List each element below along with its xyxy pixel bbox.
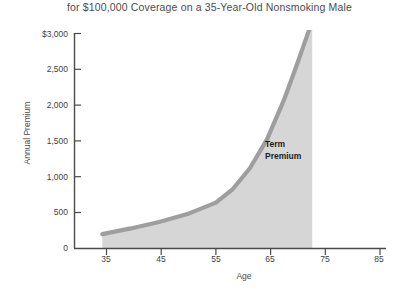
term-premium-area: [102, 21, 312, 249]
annotation-line-1: Term: [265, 139, 301, 151]
term-premium-annotation: Term Premium: [265, 139, 301, 162]
x-axis-ticks: [107, 249, 381, 255]
annotation-line-2: Premium: [265, 151, 301, 163]
plot-area: [0, 0, 419, 290]
chart-container: for $100,000 Coverage on a 35-Year-Old N…: [0, 0, 419, 290]
